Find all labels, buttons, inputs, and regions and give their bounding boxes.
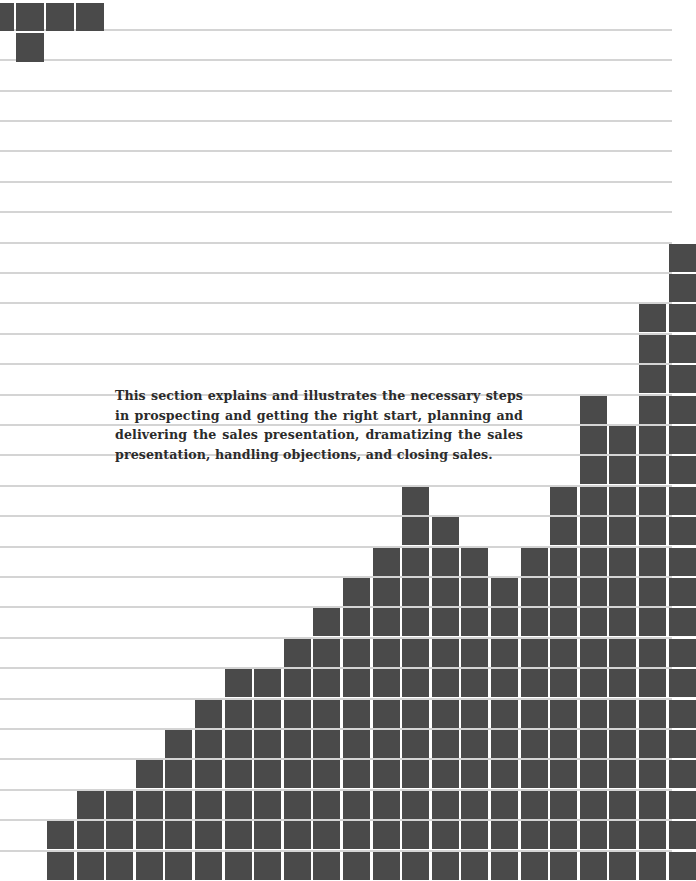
bar-cell — [343, 639, 370, 667]
bar-cell — [550, 639, 577, 667]
bar-cell — [669, 548, 696, 576]
bar-cell — [195, 700, 222, 728]
bar-cell — [313, 760, 340, 788]
bar-cell — [254, 730, 281, 758]
bar-cell — [609, 426, 636, 454]
bar-cell — [195, 791, 222, 819]
bar-cell — [432, 821, 459, 849]
bar-cell — [284, 730, 311, 758]
bar-cell — [580, 700, 607, 728]
bar-cell — [521, 760, 548, 788]
bar-cell — [461, 608, 488, 636]
bar-cell — [550, 760, 577, 788]
bar-cell — [402, 821, 429, 849]
bar-cell — [491, 821, 518, 849]
bar-cell — [402, 760, 429, 788]
bar-cell — [639, 548, 666, 576]
corner-block — [16, 33, 44, 62]
bar-cell — [550, 578, 577, 606]
bar-cell — [432, 578, 459, 606]
bar-cell — [639, 669, 666, 697]
bar-cell — [491, 639, 518, 667]
bar-cell — [343, 608, 370, 636]
bar-cell — [580, 639, 607, 667]
bar-cell — [580, 821, 607, 849]
bar-cell — [313, 608, 340, 636]
bar-cell — [669, 760, 696, 788]
bar-cell — [639, 730, 666, 758]
bar-cell — [669, 244, 696, 272]
bar-cell — [521, 669, 548, 697]
bar-cell — [491, 730, 518, 758]
bar-cell — [432, 730, 459, 758]
bar-cell — [491, 700, 518, 728]
bar-cell — [343, 760, 370, 788]
bar-cell — [77, 791, 104, 819]
bar-cell — [254, 791, 281, 819]
bar-cell — [402, 578, 429, 606]
bar-cell — [461, 669, 488, 697]
bar-cell — [284, 639, 311, 667]
bar-cell — [254, 852, 281, 880]
bar-cell — [639, 487, 666, 515]
bar-cell — [669, 487, 696, 515]
bar-cell — [432, 669, 459, 697]
bar-cell — [432, 760, 459, 788]
bar-cell — [402, 669, 429, 697]
bar-cell — [609, 760, 636, 788]
bar-cell — [432, 608, 459, 636]
bar-cell — [639, 791, 666, 819]
bar-cell — [313, 669, 340, 697]
bar-cell — [669, 456, 696, 484]
bar-cell — [136, 821, 163, 849]
bar-cell — [609, 608, 636, 636]
bar-cell — [669, 304, 696, 332]
bar-cell — [402, 730, 429, 758]
bar-cell — [609, 700, 636, 728]
bar-cell — [461, 548, 488, 576]
bar-cell — [343, 852, 370, 880]
bar-cell — [669, 730, 696, 758]
bar-cell — [580, 548, 607, 576]
bar-cell — [165, 821, 192, 849]
bar-cell — [461, 791, 488, 819]
bar-cell — [550, 791, 577, 819]
bar-cell — [580, 669, 607, 697]
bar-cell — [432, 639, 459, 667]
bar-cell — [106, 852, 133, 880]
bar-cell — [225, 852, 252, 880]
bar-cell — [669, 700, 696, 728]
bar-cell — [491, 760, 518, 788]
bar-cell — [373, 730, 400, 758]
bar-cell — [669, 639, 696, 667]
bar-cell — [313, 639, 340, 667]
bar-cell — [491, 608, 518, 636]
bar-cell — [609, 791, 636, 819]
bar-cell — [491, 578, 518, 606]
section-intro-text: This section explains and illustrates th… — [115, 386, 523, 464]
bar-cell — [669, 608, 696, 636]
bar-cell — [373, 700, 400, 728]
bar-cell — [669, 821, 696, 849]
bar-cell — [669, 274, 696, 302]
bar-cell — [373, 852, 400, 880]
bar-cell — [254, 669, 281, 697]
bar-cell — [639, 365, 666, 393]
bar-cell — [373, 639, 400, 667]
bar-cell — [580, 396, 607, 424]
bar-cell — [521, 639, 548, 667]
bar-cell — [491, 852, 518, 880]
bar-cell — [461, 578, 488, 606]
bar-cell — [609, 639, 636, 667]
bar-cell — [609, 578, 636, 606]
bar-cell — [225, 791, 252, 819]
bar-cell — [225, 760, 252, 788]
bar-cell — [461, 700, 488, 728]
bar-cell — [165, 852, 192, 880]
corner-block — [76, 3, 104, 31]
bar-cell — [580, 852, 607, 880]
bar-cell — [609, 487, 636, 515]
bar-cell — [225, 669, 252, 697]
bar-cell — [343, 730, 370, 758]
